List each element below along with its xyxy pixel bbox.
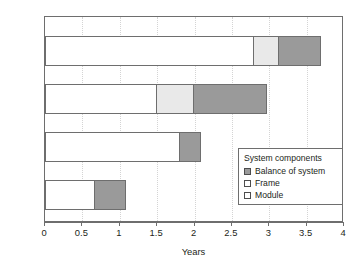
bar-segment-balance-of-system xyxy=(94,180,126,210)
x-axis-tick-label: 2.5 xyxy=(224,227,237,238)
x-axis-tick-label: 1 xyxy=(116,227,121,238)
legend-items: Balance of systemFrameModule xyxy=(244,166,337,200)
legend-item: Module xyxy=(244,190,337,200)
chart-figure: Technology (current and anticipated) Sys… xyxy=(0,0,361,267)
bar-segment-module xyxy=(45,84,157,114)
bar-segment-module xyxy=(45,132,180,162)
x-axis-tick xyxy=(44,222,45,226)
legend-item-label: Frame xyxy=(255,178,280,188)
x-axis-tick xyxy=(231,222,232,226)
bar-segment-balance-of-system xyxy=(179,132,201,162)
legend-swatch-icon xyxy=(244,168,251,175)
x-axis-tick xyxy=(306,222,307,226)
x-axis-tick-label: 0 xyxy=(41,227,46,238)
bar-row xyxy=(45,180,127,210)
legend-item: Balance of system xyxy=(244,166,337,176)
x-axis-tick-label: 3 xyxy=(266,227,271,238)
bar-row xyxy=(45,36,323,66)
legend-item: Frame xyxy=(244,178,337,188)
x-axis-title: Years xyxy=(44,246,343,257)
legend-title: System components xyxy=(244,153,337,163)
bar-row xyxy=(45,132,202,162)
legend-item-label: Module xyxy=(255,190,283,200)
x-axis-tick xyxy=(268,222,269,226)
x-axis-tick xyxy=(156,222,157,226)
bar-row xyxy=(45,84,269,114)
x-axis-tick xyxy=(81,222,82,226)
x-axis-tick-label: 4 xyxy=(340,227,345,238)
bar-segment-frame xyxy=(253,36,279,66)
legend-swatch-icon xyxy=(244,180,251,187)
plot-area: System components Balance of systemFrame… xyxy=(44,16,343,222)
x-axis-tick xyxy=(119,222,120,226)
bar-segment-balance-of-system xyxy=(193,84,268,114)
legend-item-label: Balance of system xyxy=(255,166,325,176)
bar-segment-balance-of-system xyxy=(278,36,321,66)
bar-segment-frame xyxy=(156,84,193,114)
legend-swatch-icon xyxy=(244,192,251,199)
bar-segment-module xyxy=(45,180,95,210)
legend: System components Balance of systemFrame… xyxy=(238,148,343,205)
x-axis-tick-label: 3.5 xyxy=(299,227,312,238)
bar-segment-module xyxy=(45,36,254,66)
x-axis-tick-label: 1.5 xyxy=(150,227,163,238)
x-axis-tick xyxy=(194,222,195,226)
x-axis-tick xyxy=(343,222,344,226)
x-axis-tick-label: 2 xyxy=(191,227,196,238)
x-axis-tick-label: 0.5 xyxy=(75,227,88,238)
